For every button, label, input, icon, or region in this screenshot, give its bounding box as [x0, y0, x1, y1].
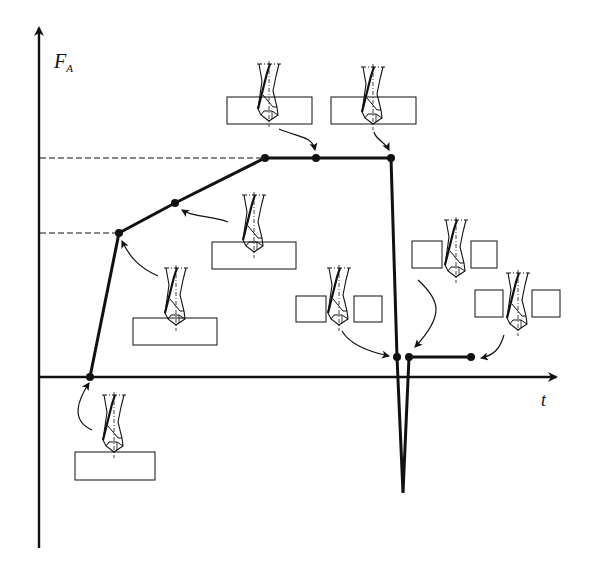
drill-stage-steady-drilling [331, 64, 416, 150]
drill-stage-fully-through [475, 270, 560, 358]
drill-stage-cone-engaged [122, 241, 217, 345]
y-axis-label: FA [54, 50, 73, 74]
drill-stage-full-diameter [227, 61, 315, 150]
y-axis-label-sub: A [66, 62, 73, 74]
drill-stage-through-hole [412, 217, 497, 347]
drill-stage-breakthrough-start [296, 265, 389, 356]
drilling-force-diagram [0, 0, 589, 569]
x-axis-label: t [541, 390, 546, 411]
drill-stage-lips-cutting [182, 192, 296, 269]
drill-stage-entry-start [75, 383, 155, 480]
y-axis-label-main: F [54, 50, 66, 72]
